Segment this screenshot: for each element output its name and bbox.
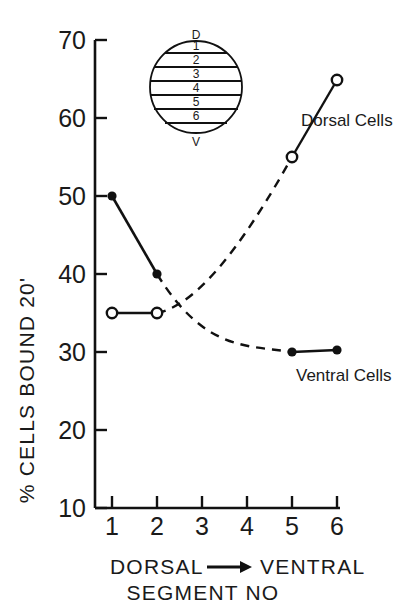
figure-container: 70 60 50 40 30 20 10 1 2 3 4 5 6 % CELLS… — [0, 0, 406, 610]
x-tick-label: 6 — [330, 512, 344, 540]
y-tick-label: 20 — [58, 416, 86, 444]
dorsal-data-point — [287, 152, 297, 162]
x-axis-title-segment: SEGMENT NO — [127, 581, 280, 604]
ventral-data-point — [332, 345, 341, 354]
dorsal-data-point — [152, 308, 162, 318]
ventral-data-point — [152, 269, 161, 278]
dorsal-series-label: Dorsal Cells — [301, 111, 393, 130]
ventral-data-point — [287, 347, 296, 356]
y-axis-tick-labels: 70 60 50 40 30 20 10 — [58, 26, 86, 522]
inset-segment-number: 2 — [193, 53, 200, 67]
inset-segment-number: 3 — [193, 67, 200, 81]
ventral-solid-segment — [292, 350, 337, 352]
y-tick-label: 50 — [58, 182, 86, 210]
x-tick-label: 2 — [150, 512, 164, 540]
dorsal-dashed-segment — [157, 157, 292, 313]
y-axis-title: % CELLS BOUND 20' — [15, 277, 38, 503]
x-axis-ticks — [112, 496, 337, 508]
y-tick-label: 10 — [58, 494, 86, 522]
dorsal-data-point — [332, 75, 342, 85]
ventral-solid-segment — [112, 196, 157, 274]
inset-ventral-label: V — [192, 135, 200, 149]
x-axis-title: DORSAL VENTRAL SEGMENT NO — [110, 555, 365, 604]
arrow-icon — [207, 561, 252, 573]
x-tick-label: 5 — [285, 512, 299, 540]
x-tick-label: 4 — [240, 512, 254, 540]
ventral-series-label: Ventral Cells — [296, 366, 391, 385]
x-axis-tick-labels: 1 2 3 4 5 6 — [105, 512, 344, 540]
x-tick-label: 3 — [195, 512, 209, 540]
series-dorsal-cells: Dorsal Cells — [107, 75, 393, 318]
x-axis-title-dorsal: DORSAL — [110, 555, 204, 578]
y-tick-label: 60 — [58, 104, 86, 132]
y-axis-ticks — [95, 40, 107, 508]
inset-segment-number: 4 — [193, 81, 200, 95]
inset-segment-numbers: 1 2 3 4 5 6 — [193, 39, 200, 123]
chart-svg: 70 60 50 40 30 20 10 1 2 3 4 5 6 % CELLS… — [0, 0, 406, 610]
inset-segment-number: 6 — [193, 109, 200, 123]
series-ventral-cells: Ventral Cells — [107, 191, 391, 385]
inset-segment-number: 1 — [193, 39, 200, 53]
y-tick-label: 30 — [58, 338, 86, 366]
y-tick-label: 70 — [58, 26, 86, 54]
dorsal-data-point — [107, 308, 117, 318]
ventral-data-point — [107, 191, 116, 200]
inset-segment-number: 5 — [193, 95, 200, 109]
ventral-dashed-segment — [157, 274, 292, 352]
x-axis-title-ventral: VENTRAL — [260, 555, 365, 578]
inset-segment-diagram: D 1 2 3 4 5 6 V — [150, 28, 242, 149]
x-tick-label: 1 — [105, 512, 119, 540]
y-tick-label: 40 — [58, 260, 86, 288]
